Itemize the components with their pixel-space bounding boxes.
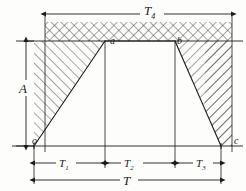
point-label-a: a [110,36,115,46]
label-base-T: T [123,173,130,188]
diagram-figure: T4 A T1 T2 T3 T o a b c [0,0,246,191]
label-base-A: A [19,81,27,96]
dimension-T4 [46,7,231,21]
label-sub-T1: 1 [65,164,68,171]
dimension-label-T1: T1 [59,158,69,172]
point-label-o: o [32,136,37,146]
point-label-b: b [177,36,182,46]
point-label-c: c [234,136,238,146]
dimension-label-T4: T4 [144,4,155,21]
top-band-hatch [45,22,232,41]
label-sub-T3: 3 [202,164,205,171]
dimension-label-T3: T3 [196,158,206,172]
dimension-label-T2: T2 [124,158,134,172]
dimension-T1 [35,156,104,170]
diagram-canvas [0,0,246,191]
label-sub-T2: 2 [130,164,133,171]
dimension-label-A: A [19,82,27,95]
dimension-label-T: T [123,174,130,187]
left-outer-hatch [34,41,45,146]
dimension-T2 [106,156,174,170]
label-sub-T4: 4 [151,12,155,21]
